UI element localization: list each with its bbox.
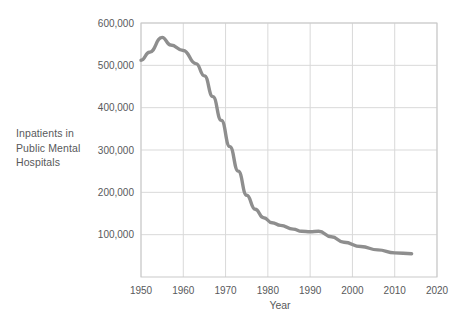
- x-tick-label: 2000: [341, 285, 364, 296]
- line-chart-plot: 100,000200,000300,000400,000500,000600,0…: [0, 0, 464, 326]
- y-tick-label: 300,000: [98, 145, 135, 156]
- y-tick-label: 600,000: [98, 18, 135, 29]
- y-tick-label: 200,000: [98, 187, 135, 198]
- x-tick-label: 1990: [299, 285, 322, 296]
- x-axis-title: Year: [0, 299, 464, 311]
- y-tick-label: 400,000: [98, 102, 135, 113]
- gridlines: [141, 23, 437, 277]
- x-tick-label: 2020: [426, 285, 449, 296]
- x-axis-title-text: Year: [269, 299, 290, 311]
- data-series-layer: [141, 37, 412, 253]
- data-line-inpatients: [141, 37, 412, 253]
- x-tick-label: 1980: [257, 285, 280, 296]
- x-tick-label: 2010: [384, 285, 407, 296]
- y-axis-tick-labels: 100,000200,000300,000400,000500,000600,0…: [98, 18, 135, 241]
- x-axis-tick-labels: 19501960197019801990200020102020: [130, 285, 449, 296]
- y-tick-label: 500,000: [98, 60, 135, 71]
- x-tick-label: 1960: [172, 285, 195, 296]
- x-tick-label: 1950: [130, 285, 153, 296]
- x-tick-label: 1970: [214, 285, 237, 296]
- chart-container: Inpatients in Public Mental Hospitals 10…: [0, 0, 464, 326]
- y-tick-label: 100,000: [98, 229, 135, 240]
